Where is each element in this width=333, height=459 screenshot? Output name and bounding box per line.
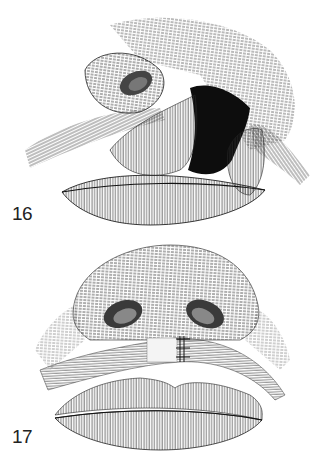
figure-17: 17 <box>0 230 333 459</box>
figure-16-illustration <box>0 0 333 230</box>
figure-17-illustration <box>0 230 333 459</box>
figure-16: 16 <box>0 0 333 230</box>
lower-lip <box>55 411 262 450</box>
figure-number-17: 17 <box>12 426 32 448</box>
figure-number-16: 16 <box>12 203 32 225</box>
nose-tip <box>73 245 259 340</box>
muscle-junction <box>147 338 177 362</box>
